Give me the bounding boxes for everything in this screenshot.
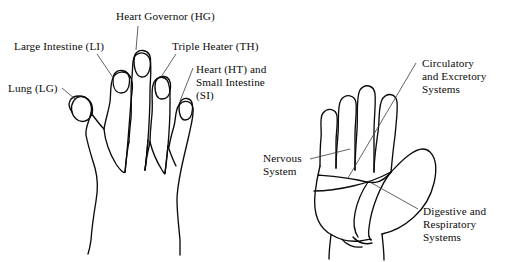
- leader-heart-governor: [136, 26, 138, 50]
- right-hand-outline: [314, 86, 436, 260]
- left-hand-outline: [69, 50, 193, 255]
- label-large-intestine: Large Intestine (LI): [14, 40, 104, 53]
- label-triple-heater: Triple Heater (TH): [172, 40, 259, 53]
- leader-circulatory-excretory: [348, 63, 416, 178]
- right-hand-leader-lines: [310, 63, 418, 209]
- label-heart-small-intestine: Heart (HT) and Small Intestine (SI): [196, 63, 266, 103]
- label-circulatory-excretory: Circulatory and Excretory Systems: [422, 57, 486, 97]
- diagram-canvas: Lung (LG) Large Intestine (LI) Heart Gov…: [0, 0, 510, 262]
- label-nervous-system: Nervous System: [263, 152, 302, 178]
- leader-triple-heater: [161, 54, 176, 77]
- thumb-nail: [70, 95, 94, 123]
- label-heart-governor: Heart Governor (HG): [116, 10, 215, 23]
- ring-nail: [155, 76, 171, 99]
- label-lung: Lung (LG): [8, 82, 58, 95]
- leader-nervous-system: [310, 149, 350, 159]
- leader-large-intestine: [97, 54, 114, 79]
- label-digestive-respiratory: Digestive and Respiratory Systems: [423, 205, 486, 245]
- palm-crease-life-line: [354, 182, 368, 237]
- leader-heart-small-intestine: [180, 68, 193, 101]
- leader-lung: [62, 88, 75, 99]
